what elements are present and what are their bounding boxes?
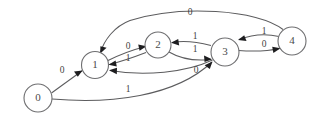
edge-label-2-3: 1 (193, 44, 198, 54)
edge-4-to-3: 1 (238, 26, 279, 41)
edge-label-0-3: 1 (126, 84, 131, 94)
edge-3-to-2: 1 (171, 31, 211, 45)
node-4-label: 4 (289, 34, 295, 46)
node-1-label: 1 (92, 58, 98, 70)
edge-0-to-3: 1 (52, 62, 213, 101)
node-2-label: 2 (155, 38, 161, 50)
edge-label-0-1: 0 (60, 65, 65, 75)
edge-3-to-1: 0 (109, 60, 213, 75)
node-3-label: 3 (222, 45, 228, 57)
arrowhead-2-1 (109, 60, 117, 66)
edge-2-to-1: 1 (109, 53, 147, 67)
edge-label-3-1: 0 (194, 65, 199, 75)
edge-label-3-4: 0 (262, 39, 267, 49)
node-1[interactable]: 1 (82, 52, 109, 79)
edge-label-2-1: 1 (126, 53, 131, 63)
arrowhead-4-3 (238, 35, 247, 41)
node-2[interactable]: 2 (145, 32, 171, 58)
edge-0-to-1: 0 (52, 65, 83, 93)
node-4[interactable]: 4 (278, 27, 306, 55)
edge-3-to-4: 0 (239, 39, 281, 53)
node-3[interactable]: 3 (211, 38, 239, 66)
edge-label-4-1: 0 (188, 7, 193, 17)
edge-label-1-2: 0 (126, 41, 131, 51)
edge-path-0-3 (52, 62, 212, 100)
state-diagram-canvas: 0 1 0 1 1 1 (0, 0, 321, 120)
node-0[interactable]: 0 (24, 84, 52, 112)
node-0-label: 0 (35, 91, 41, 103)
fsm-graph: 0 1 0 1 1 1 (0, 0, 321, 120)
edge-2-to-3: 1 (168, 44, 212, 62)
edge-label-4-3: 1 (262, 26, 267, 36)
arrowhead-3-2 (171, 39, 179, 45)
edge-label-3-2: 1 (193, 31, 198, 41)
